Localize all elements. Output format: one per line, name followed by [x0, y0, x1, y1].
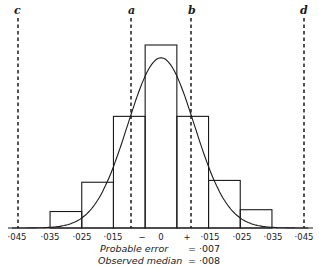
- histogram-figure: c a b d ·045 ·035 ·025 ·015 − 0 + ·015 ·…: [0, 0, 319, 266]
- histogram-bar: [113, 116, 145, 228]
- tick-label: ·045: [8, 232, 27, 242]
- tick-label: ·025: [233, 232, 252, 242]
- tick-label: ·045: [295, 232, 314, 242]
- ref-label-d: d: [300, 4, 308, 17]
- ref-label-a: a: [128, 4, 135, 17]
- probable-error-label: Probable error: [100, 243, 169, 254]
- tick-label: +: [183, 232, 190, 242]
- tick-label: 0: [158, 232, 163, 242]
- tick-label: ·025: [73, 232, 92, 242]
- tick-label: ·035: [41, 232, 60, 242]
- observed-median-value: = ·008: [188, 255, 220, 266]
- normal-curve: [12, 58, 308, 228]
- tick-label: ·015: [201, 232, 220, 242]
- histogram-bar: [177, 116, 209, 228]
- x-tick-labels: ·045 ·035 ·025 ·015 − 0 + ·015 ·025 ·035…: [8, 232, 314, 242]
- tick-label: ·035: [264, 232, 283, 242]
- histogram-bar: [209, 180, 241, 228]
- histogram-bars: [50, 45, 272, 228]
- ref-label-b: b: [188, 4, 196, 17]
- tick-label: ·015: [104, 232, 123, 242]
- histogram-bar: [145, 45, 177, 228]
- probable-error-value: = ·007: [188, 243, 220, 254]
- observed-median-label: Observed median: [98, 255, 182, 266]
- tick-label: −: [138, 232, 145, 242]
- reference-lines: [18, 18, 304, 228]
- ref-label-c: c: [14, 4, 21, 17]
- histogram-bar: [82, 182, 114, 228]
- chart-canvas: c a b d ·045 ·035 ·025 ·015 − 0 + ·015 ·…: [0, 0, 319, 266]
